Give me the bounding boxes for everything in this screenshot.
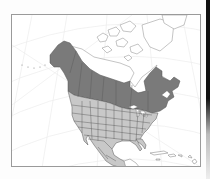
caribbean-islands	[150, 151, 197, 164]
page	[0, 0, 210, 179]
central-america	[124, 159, 140, 167]
map-frame	[11, 14, 201, 167]
north-america-range-map	[12, 15, 201, 167]
arctic-islands	[97, 19, 174, 61]
aleutian-islands	[21, 64, 45, 68]
right-edge-bar	[206, 0, 210, 179]
